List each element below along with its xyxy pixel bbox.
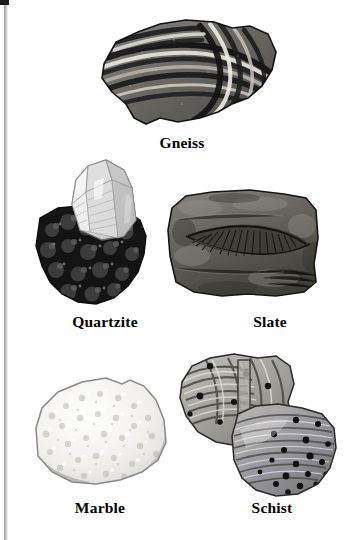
specimen-slate <box>164 186 324 306</box>
figure-page: Gneiss <box>0 0 348 540</box>
specimen-schist <box>176 352 340 500</box>
specimen-quartzite <box>28 158 158 308</box>
specimen-label-marble: Marble <box>50 499 150 517</box>
specimen-label-schist: Schist <box>222 499 322 517</box>
specimen-label-slate: Slate <box>220 313 320 331</box>
scan-edge-top-cap <box>0 0 9 5</box>
specimen-label-gneiss: Gneiss <box>132 134 232 152</box>
specimen-gneiss <box>82 12 282 132</box>
scan-edge-hairline <box>7 0 8 540</box>
specimen-label-quartzite: Quartzite <box>40 313 170 331</box>
specimen-marble <box>26 372 176 492</box>
